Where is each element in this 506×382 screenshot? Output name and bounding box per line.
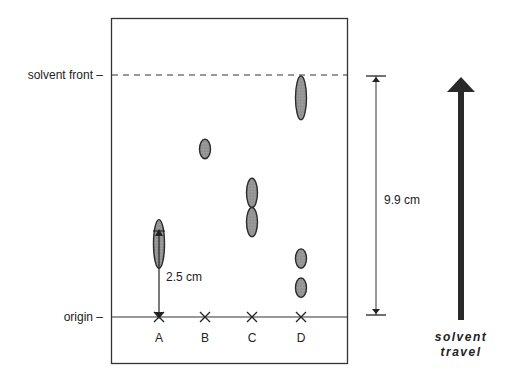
solvent-travel-arrowhead xyxy=(447,77,475,92)
spot-lane-c-2 xyxy=(247,207,258,236)
solvent-travel-label-line2: travel xyxy=(440,345,481,359)
lane-label-c: C xyxy=(248,331,257,345)
spot-lane-d-2 xyxy=(296,249,307,268)
spot-lane-d-1 xyxy=(296,76,307,120)
solvent-distance-arrowhead-top xyxy=(372,77,380,82)
solvent-distance-marker xyxy=(366,76,386,315)
solvent-travel-arrow xyxy=(447,77,475,320)
lane-label-a: A xyxy=(155,331,163,345)
solvent-travel-label-line1: solvent xyxy=(435,330,488,344)
lane-label-d: D xyxy=(297,331,306,345)
solvent-front-label: solvent front – xyxy=(28,68,104,82)
spot-lane-c-1 xyxy=(247,178,258,207)
chromatography-plate xyxy=(112,19,348,364)
solvent-travel-shaft xyxy=(458,88,464,320)
spot-lane-b-1 xyxy=(200,139,211,158)
solvent-distance-label: 9.9 cm xyxy=(384,193,420,207)
spot-lane-d-3 xyxy=(296,278,307,297)
lane-label-b: B xyxy=(201,331,209,345)
spot-a-distance-label: 2.5 cm xyxy=(166,270,202,284)
chromatography-diagram: solvent front – origin – ABCD 2.5 cm 9.9… xyxy=(0,0,506,382)
solvent-distance-arrowhead-bottom xyxy=(372,309,380,314)
origin-label: origin – xyxy=(64,310,104,324)
